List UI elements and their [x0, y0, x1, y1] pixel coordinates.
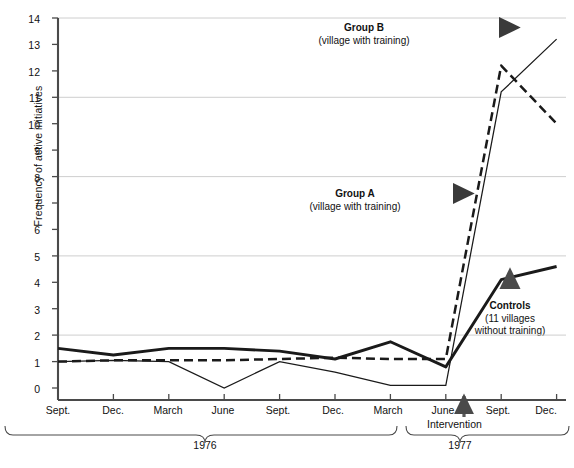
series-line-group-b [58, 39, 557, 388]
x-axis [58, 394, 566, 400]
series-line-controls [58, 267, 557, 367]
chart-figure: Frequency of active initiatives 14 13 12… [0, 0, 574, 468]
year-bracket-1977 [406, 426, 569, 443]
year-bracket-1976 [5, 426, 397, 443]
series-line-group-a [58, 66, 557, 362]
chart-canvas [0, 0, 574, 468]
y-axis [52, 18, 58, 400]
chart-gridlines [58, 18, 566, 335]
